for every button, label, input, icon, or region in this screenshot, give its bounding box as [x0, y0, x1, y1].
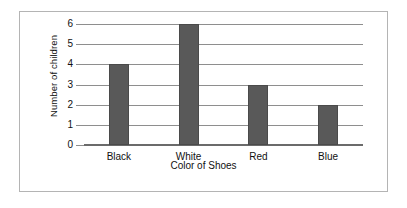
- y-axis-tick-label: 3: [53, 80, 73, 90]
- y-axis-tick-label: 6: [53, 19, 73, 29]
- y-axis-tick-label: 5: [53, 39, 73, 49]
- y-axis-title: Number of children: [47, 20, 61, 132]
- y-axis-tick-label: 4: [53, 59, 73, 69]
- chart-figure: Number of children 0123456BlackWhiteRedB…: [19, 11, 388, 192]
- y-axis-tick-label: 1: [53, 120, 73, 130]
- y-axis-tick: [76, 85, 84, 86]
- gridline: [84, 44, 363, 45]
- bar-red: [248, 85, 268, 146]
- y-axis-tick: [76, 125, 84, 126]
- plot-area: 0123456BlackWhiteRedBlue: [84, 24, 363, 145]
- y-axis-tick: [76, 64, 84, 65]
- gridline: [84, 24, 363, 25]
- y-axis-tick-label: 2: [53, 100, 73, 110]
- y-axis-tick: [76, 145, 84, 146]
- bar-white: [179, 24, 199, 145]
- y-axis-tick-label: 0: [53, 140, 73, 150]
- y-axis-tick: [76, 24, 84, 25]
- y-axis-tick: [76, 105, 84, 106]
- bar-black: [109, 64, 129, 145]
- x-axis-title: Color of Shoes: [20, 160, 387, 172]
- bar-blue: [318, 105, 338, 145]
- y-axis-tick: [76, 44, 84, 45]
